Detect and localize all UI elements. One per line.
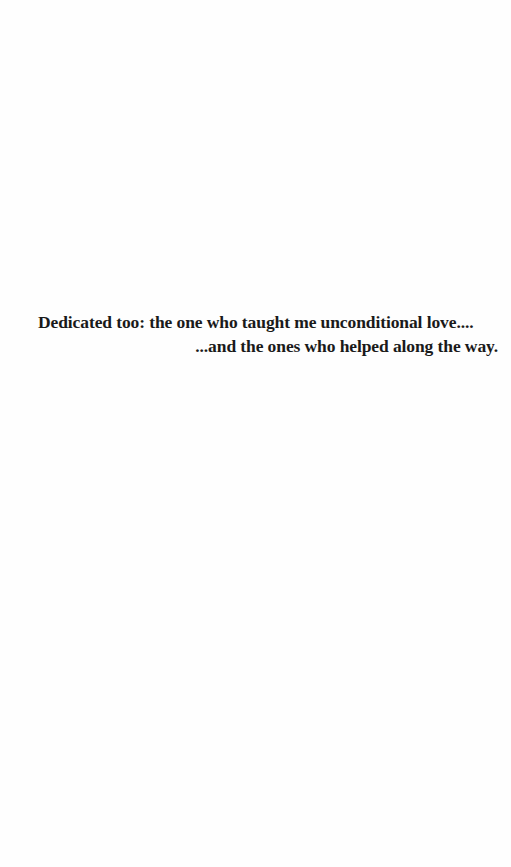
book-page: Dedicated too: the one who taught me unc… <box>0 0 511 867</box>
dedication-block: Dedicated too: the one who taught me unc… <box>38 310 500 358</box>
dedication-line-2: ...and the ones who helped along the way… <box>38 334 500 358</box>
dedication-line-1: Dedicated too: the one who taught me unc… <box>38 310 500 334</box>
